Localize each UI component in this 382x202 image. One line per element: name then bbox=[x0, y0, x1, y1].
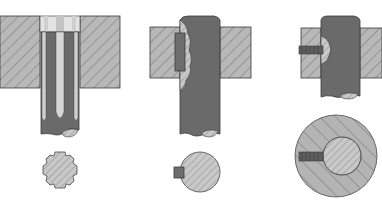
keyed-shaft-cross-section bbox=[180, 152, 220, 192]
diagram-canvas bbox=[0, 0, 382, 202]
set-screw-panel bbox=[295, 16, 382, 197]
set-screw-cross-section bbox=[299, 152, 323, 161]
spline-cross-section bbox=[43, 152, 77, 188]
feather-key-panel bbox=[150, 16, 251, 192]
key-cross-section bbox=[174, 167, 184, 178]
shaft-cross-section bbox=[323, 137, 361, 175]
hub-right-section bbox=[80, 16, 120, 88]
set-screw bbox=[299, 46, 323, 54]
hub-right-section bbox=[360, 28, 382, 78]
hub-left-section bbox=[0, 16, 40, 88]
splined-shaft-panel bbox=[0, 16, 120, 188]
feather-key bbox=[175, 33, 185, 71]
hub-right-section bbox=[220, 27, 251, 78]
